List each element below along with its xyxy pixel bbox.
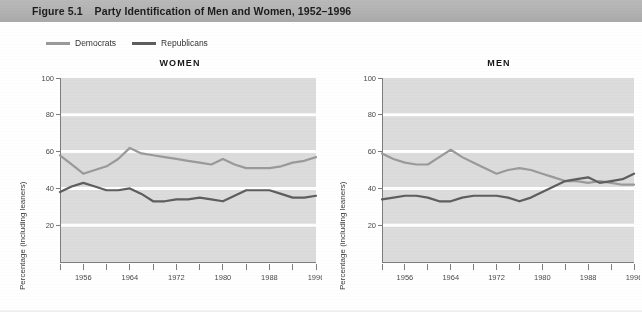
y-tick-label: 20 (46, 221, 54, 230)
legend-label-republicans: Republicans (161, 38, 208, 48)
chart-svg-men: 20406080100195619641972198019881996 (352, 74, 640, 302)
figure-number: Figure 5.1 (32, 5, 83, 17)
y-axis-label-women: Percentage (including leaners) (18, 181, 27, 290)
y-tick-label: 60 (368, 147, 376, 156)
legend-swatch-republicans (132, 42, 156, 45)
y-tick-label: 40 (368, 184, 376, 193)
x-tick-label: 1972 (488, 273, 505, 282)
x-tick-label: 1964 (442, 273, 459, 282)
figure-title: Party Identification of Men and Women, 1… (95, 5, 352, 17)
chart-svg-women: 20406080100195619641972198019881996 (30, 74, 322, 302)
x-tick-label: 1996 (626, 273, 640, 282)
y-axis-label-men: Percentage (including leaners) (338, 181, 347, 290)
x-tick-label: 1988 (261, 273, 278, 282)
x-tick-label: 1964 (121, 273, 138, 282)
legend-swatch-democrats (46, 42, 70, 45)
y-tick-label: 60 (46, 147, 54, 156)
chart-panel-men: MEN Percentage (including leaners) 20406… (330, 58, 642, 306)
chart-panel-women: WOMEN Percentage (including leaners) 204… (6, 58, 324, 306)
x-tick-label: 1956 (75, 273, 92, 282)
chart-title-men: MEN (330, 58, 642, 68)
y-tick-label: 80 (46, 110, 54, 119)
figure-title-bar: Figure 5.1 Party Identification of Men a… (0, 0, 642, 22)
x-tick-label: 1996 (308, 273, 322, 282)
chart-title-women: WOMEN (6, 58, 324, 68)
x-tick-label: 1972 (168, 273, 185, 282)
y-tick-label: 20 (368, 221, 376, 230)
plot-area-men: 20406080100195619641972198019881996 (352, 74, 640, 302)
y-tick-label: 80 (368, 110, 376, 119)
legend-item-republicans: Republicans (132, 38, 208, 48)
y-tick-label: 100 (363, 74, 376, 83)
legend-item-democrats: Democrats (46, 38, 116, 48)
y-tick-label: 40 (46, 184, 54, 193)
x-tick-label: 1980 (215, 273, 232, 282)
plot-area-women: 20406080100195619641972198019881996 (30, 74, 322, 302)
legend: Democrats Republicans (46, 36, 208, 50)
y-tick-label: 100 (41, 74, 54, 83)
x-tick-label: 1956 (397, 273, 414, 282)
figure-page: Figure 5.1 Party Identification of Men a… (0, 0, 642, 312)
legend-label-democrats: Democrats (75, 38, 116, 48)
x-tick-label: 1980 (534, 273, 551, 282)
x-tick-label: 1988 (580, 273, 597, 282)
